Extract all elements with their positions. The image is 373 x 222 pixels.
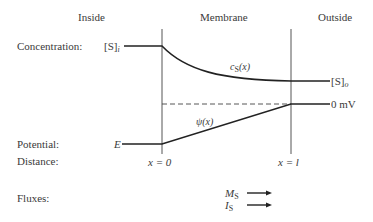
outside-potential-label: 0 mV xyxy=(331,99,356,110)
header-outside: Outside xyxy=(318,12,352,23)
concentration-profile xyxy=(124,46,330,81)
left-boundary-label: x = 0 xyxy=(148,157,171,168)
current-label: IS xyxy=(225,200,233,211)
row-label-concentration: Concentration: xyxy=(17,41,82,52)
inside-potential-label: E xyxy=(114,139,121,150)
concentration-curve-label: cS(x) xyxy=(230,62,250,72)
row-label-distance: Distance: xyxy=(17,156,59,167)
inside-concentration-label: [S]i xyxy=(104,41,120,52)
mass-flux-label: MS xyxy=(225,188,239,199)
current-arrow-icon xyxy=(247,203,272,208)
outside-concentration-label: [S]o xyxy=(331,76,348,87)
row-label-fluxes: Fluxes: xyxy=(17,193,49,204)
potential-curve-label: ψ(x) xyxy=(196,117,213,127)
potential-profile xyxy=(122,104,330,144)
header-inside: Inside xyxy=(78,12,105,23)
header-membrane: Membrane xyxy=(200,12,248,23)
mass-flux-arrow-icon xyxy=(247,191,272,196)
membrane-diagram xyxy=(0,0,373,222)
row-label-potential: Potential: xyxy=(17,139,59,150)
right-boundary-label: x = l xyxy=(278,157,299,168)
